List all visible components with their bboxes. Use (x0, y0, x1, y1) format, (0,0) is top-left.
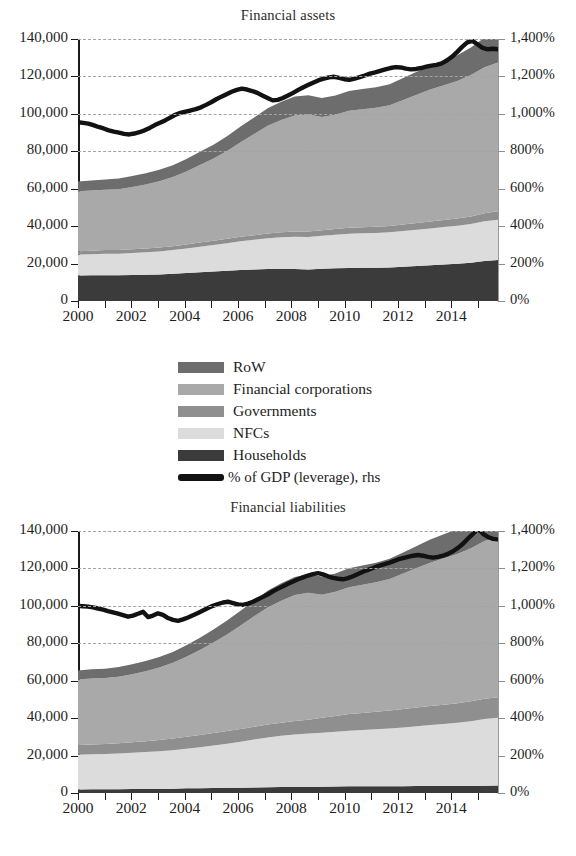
y-axis-tick (71, 793, 78, 794)
series-canvas (78, 39, 498, 301)
y2-axis-tick (498, 531, 505, 532)
legend-item-gov[interactable]: Governments (178, 400, 576, 422)
y2-axis-tick (498, 718, 505, 719)
x-axis-tick (371, 793, 372, 800)
y-axis-tick (71, 226, 78, 227)
gridline (78, 39, 498, 40)
x-axis-tick (478, 793, 479, 800)
stacked-area-svg (78, 39, 498, 301)
x-axis-tick-label: 2010 (329, 307, 360, 325)
y2-axis-tick (498, 76, 505, 77)
x-axis-tick (371, 301, 372, 308)
y2-axis-tick (498, 301, 505, 302)
x-axis-tick-label: 2012 (383, 799, 414, 817)
chart-legend: RoWFinancial corporationsGovernmentsNFCs… (0, 352, 576, 492)
x-axis-tick-label: 2014 (436, 307, 467, 325)
x-axis-tick-label: 2006 (223, 799, 254, 817)
x-axis-tick-label: 2008 (276, 799, 307, 817)
y2-axis-tick (498, 606, 505, 607)
x-axis-tick (425, 301, 426, 308)
legend-item-fincorp[interactable]: Financial corporations (178, 378, 576, 400)
y-axis-tick (71, 606, 78, 607)
gridline (78, 76, 498, 77)
figure-root: Financial assets 020,00040,00060,00080,0… (0, 0, 576, 856)
chart-financial-assets: Financial assets 020,00040,00060,00080,0… (0, 0, 576, 352)
y-axis-tick (71, 76, 78, 77)
x-axis-tick-label: 2000 (63, 799, 94, 817)
x-axis-tick (158, 793, 159, 800)
legend-color-swatch-fincorp (178, 384, 224, 395)
y-axis-tick (71, 264, 78, 265)
y2-axis-tick (498, 756, 505, 757)
legend-color-swatch-hh (178, 450, 224, 461)
x-axis-tick (265, 793, 266, 800)
series-canvas (78, 531, 498, 793)
x-axis-tick (211, 793, 212, 800)
y2-axis-tick (498, 189, 505, 190)
x-axis-tick (318, 793, 319, 800)
plot-area-assets: 020,00040,00060,00080,000100,000120,0001… (0, 27, 576, 327)
x-axis-tick (478, 301, 479, 308)
legend-color-swatch-row (178, 362, 224, 373)
right-axis-line (498, 39, 499, 301)
x-axis-tick (211, 301, 212, 308)
y-axis-tick (71, 189, 78, 190)
y-axis-tick (71, 756, 78, 757)
legend-color-swatch-nfc (178, 428, 224, 439)
stacked-area-svg (78, 531, 498, 793)
legend-item-nfc[interactable]: NFCs (178, 422, 576, 444)
legend-label-fincorp: Financial corporations (233, 381, 372, 397)
gridline (78, 114, 498, 115)
y2-axis-tick (498, 568, 505, 569)
legend-label-leverage: % of GDP (leverage), rhs (228, 469, 380, 485)
gridline (78, 568, 498, 569)
right-axis-line (498, 531, 499, 793)
gridline (78, 606, 498, 607)
y-axis-tick (71, 681, 78, 682)
x-axis-tick (105, 793, 106, 800)
y2-axis-tick (498, 151, 505, 152)
x-axis-tick-label: 2004 (169, 799, 200, 817)
legend-label-row: RoW (233, 359, 266, 375)
legend-label-hh: Households (233, 447, 306, 463)
y2-axis-tick (498, 114, 505, 115)
legend-item-leverage[interactable]: % of GDP (leverage), rhs (178, 466, 576, 488)
x-axis-tick (318, 301, 319, 308)
legend-color-swatch-gov (178, 406, 224, 417)
x-axis-tick (158, 301, 159, 308)
x-axis-tick-label: 2006 (223, 307, 254, 325)
chart-title-liabilities: Financial liabilities (0, 492, 576, 519)
x-axis-tick (425, 793, 426, 800)
y-axis-tick (71, 531, 78, 532)
y2-axis-tick (498, 681, 505, 682)
y-axis-tick (71, 114, 78, 115)
gridline (78, 151, 498, 152)
y-axis-tick (71, 718, 78, 719)
y-axis-tick (71, 151, 78, 152)
x-axis-tick-label: 2002 (116, 799, 147, 817)
chart-financial-liabilities: Financial liabilities 020,00040,00060,00… (0, 492, 576, 838)
y2-axis-tick (498, 793, 505, 794)
y2-axis-tick (498, 643, 505, 644)
chart-title-assets: Financial assets (0, 0, 576, 27)
y-axis-tick (71, 568, 78, 569)
gridline (78, 531, 498, 532)
x-axis-tick (265, 301, 266, 308)
legend-label-gov: Governments (233, 403, 317, 419)
x-axis-tick-label: 2000 (63, 307, 94, 325)
x-axis-tick-label: 2010 (329, 799, 360, 817)
x-axis-tick-label: 2002 (116, 307, 147, 325)
x-axis-tick-label: 2004 (169, 307, 200, 325)
y2-axis-tick (498, 264, 505, 265)
x-axis-tick (105, 301, 106, 308)
y2-axis-tick (498, 226, 505, 227)
y-axis-tick (71, 643, 78, 644)
y-axis-tick (71, 39, 78, 40)
legend-line-swatch-leverage (178, 474, 224, 481)
y-axis-tick (71, 301, 78, 302)
legend-item-hh[interactable]: Households (178, 444, 576, 466)
gridline (78, 643, 498, 644)
x-axis-tick-label: 2008 (276, 307, 307, 325)
legend-item-row[interactable]: RoW (178, 356, 576, 378)
x-axis-tick-label: 2012 (383, 307, 414, 325)
